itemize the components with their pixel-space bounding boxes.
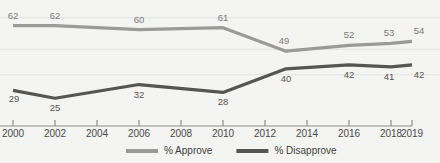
data-label: 42: [414, 69, 425, 80]
x-axis-tick-label: 2004: [86, 128, 109, 139]
data-label: 49: [279, 35, 290, 46]
data-label: 60: [134, 14, 145, 25]
data-label: 54: [414, 25, 425, 36]
legend-label: % Approve: [164, 145, 213, 156]
data-label: 40: [281, 73, 292, 84]
data-label: 28: [218, 96, 229, 107]
x-axis-tick-label: 2002: [44, 128, 67, 139]
x-axis-tick-label: 2016: [338, 128, 361, 139]
data-label: 41: [384, 71, 395, 82]
x-axis-tick-label: 2014: [296, 128, 319, 139]
x-axis-tick-label: 2006: [128, 128, 151, 139]
x-axis-tick-label: 2000: [2, 128, 25, 139]
x-axis-tick-label: 2019: [401, 128, 424, 139]
chart-legend: % Approve% Disapprove: [126, 145, 337, 156]
data-label: 62: [8, 10, 19, 21]
data-label: 61: [218, 12, 229, 23]
x-axis-tick-label: 2018: [380, 128, 403, 139]
data-label: 25: [50, 102, 61, 113]
data-label: 29: [9, 93, 20, 104]
data-label: 53: [384, 27, 395, 38]
x-axis: 2000200220042006200820102012201420162018…: [0, 120, 424, 139]
x-axis-tick-label: 2012: [254, 128, 277, 139]
x-axis-tick-label: 2008: [170, 128, 193, 139]
data-label: 42: [344, 69, 355, 80]
line-chart: 62626061495253542925322840424142 2000200…: [0, 0, 440, 163]
data-label: 32: [134, 89, 145, 100]
legend-label: % Disapprove: [274, 145, 337, 156]
data-label: 62: [50, 10, 61, 21]
x-axis-tick-label: 2010: [212, 128, 235, 139]
data-label: 52: [344, 29, 355, 40]
chart-container: 62626061495253542925322840424142 2000200…: [0, 0, 440, 163]
